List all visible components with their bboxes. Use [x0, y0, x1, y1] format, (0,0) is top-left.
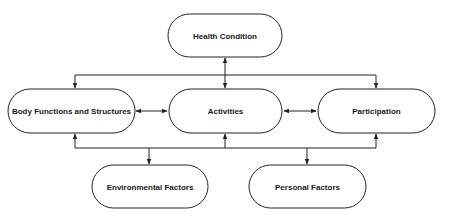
- node-label: Activities: [208, 107, 244, 116]
- node-label: Environmental Factors: [107, 183, 194, 192]
- node-body-functions[interactable]: Body Functions and Structures: [8, 89, 135, 133]
- edge-top-bus-right: [225, 75, 376, 88]
- node-label: Body Functions and Structures: [12, 107, 132, 116]
- node-environmental-factors[interactable]: Environmental Factors: [92, 165, 208, 208]
- node-label: Health Condition: [193, 32, 257, 41]
- node-label: Participation: [352, 107, 401, 116]
- icf-diagram: Health Condition Body Functions and Stru…: [0, 0, 452, 221]
- node-label: Personal Factors: [275, 183, 340, 192]
- edge-top-bus-left: [75, 75, 225, 88]
- node-participation[interactable]: Participation: [318, 89, 435, 133]
- node-health-condition[interactable]: Health Condition: [168, 14, 282, 57]
- node-activities[interactable]: Activities: [169, 89, 282, 133]
- node-personal-factors[interactable]: Personal Factors: [249, 165, 366, 208]
